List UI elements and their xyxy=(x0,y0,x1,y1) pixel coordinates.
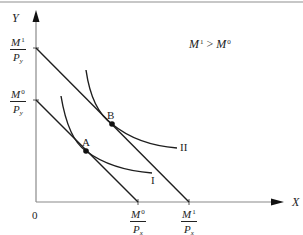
y0-den: P xyxy=(13,103,20,115)
annotation-m1: M xyxy=(189,37,199,51)
indifference-curve-ii xyxy=(86,70,177,148)
x-axis-arrow-icon xyxy=(271,199,284,206)
y0-den-sub: y xyxy=(20,109,23,117)
curve-i-label: I xyxy=(151,175,155,186)
curve-ii-label: II xyxy=(180,142,187,153)
y-intercept-m0-label: M0 Py xyxy=(10,89,26,117)
y0-num-sup: 0 xyxy=(21,88,25,96)
x0-num-sup: 0 xyxy=(141,208,145,216)
y-axis-label: Y xyxy=(12,12,19,24)
point-b-label: B xyxy=(107,110,114,121)
x1-den-sub: x xyxy=(191,229,194,235)
income-relation-annotation: M1 > M0 xyxy=(189,38,231,50)
y1-num-sup: 1 xyxy=(21,36,25,44)
point-a-marker xyxy=(83,148,89,154)
annotation-relation: > xyxy=(204,37,217,51)
y1-den: P xyxy=(13,51,20,63)
y0-num: M xyxy=(11,88,20,100)
origin-label: 0 xyxy=(32,210,38,221)
x-axis-label: X xyxy=(292,196,299,208)
x1-num-sup: 1 xyxy=(192,208,196,216)
y1-num: M xyxy=(11,36,20,48)
x1-num: M xyxy=(182,208,191,220)
consumer-equilibrium-diagram: Y X 0 M1 > M0 M1 Py M0 Py M0 Px M1 Px A … xyxy=(0,0,303,235)
point-b-marker xyxy=(109,121,115,127)
x0-den-sub: x xyxy=(140,229,143,235)
point-a-label: A xyxy=(82,137,90,148)
x0-den: P xyxy=(133,223,140,235)
indifference-curve-i xyxy=(61,96,152,173)
annotation-m0-sup: 0 xyxy=(227,38,231,46)
x-intercept-m1-label: M1 Px xyxy=(181,209,197,235)
x0-num: M xyxy=(131,208,140,220)
annotation-m0: M xyxy=(216,37,226,51)
y-axis-arrow-icon xyxy=(33,10,40,22)
diagram-canvas xyxy=(0,0,303,235)
y1-den-sub: y xyxy=(20,57,23,65)
y-intercept-m1-label: M1 Py xyxy=(10,37,26,65)
x1-den: P xyxy=(184,223,191,235)
x-intercept-m0-label: M0 Px xyxy=(130,209,146,235)
